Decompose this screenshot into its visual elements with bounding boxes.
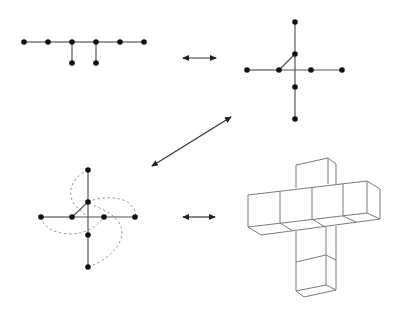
graph-node <box>101 214 107 220</box>
row-bottom-divider-1 <box>280 223 293 231</box>
row-bottom-face <box>248 219 380 235</box>
graph-node <box>85 232 91 238</box>
row-right-face <box>367 181 380 219</box>
graph-node <box>292 116 298 122</box>
linear-tree-graph <box>21 39 147 66</box>
graph-node <box>69 39 75 45</box>
arrow-diagonal <box>152 117 231 166</box>
pinwheel-tree-graph <box>38 167 138 270</box>
graph-node <box>244 67 250 73</box>
dashed-curve-bottom <box>88 202 122 267</box>
diagram-canvas <box>0 0 404 320</box>
stem-divider <box>296 255 336 262</box>
graph-node <box>93 39 99 45</box>
graph-node <box>45 39 51 45</box>
graph-node <box>292 51 298 57</box>
graph-node <box>117 39 123 45</box>
cube-net <box>248 158 380 297</box>
row-bottom-divider-2 <box>312 219 325 227</box>
dashed-curve-right <box>88 198 135 217</box>
graph-edge <box>279 54 295 70</box>
bidirectional-arrows <box>152 58 231 217</box>
graph-node <box>69 60 75 66</box>
diagram-svg <box>0 0 404 320</box>
graph-node <box>292 84 298 90</box>
graph-node <box>21 39 27 45</box>
graph-node <box>132 214 138 220</box>
graph-node <box>85 264 91 270</box>
graph-node <box>85 199 91 205</box>
cross-tree-graph <box>244 19 345 122</box>
graph-node <box>93 60 99 66</box>
graph-node <box>38 214 44 220</box>
top-cube-outline <box>296 158 336 188</box>
graph-node <box>308 67 314 73</box>
graph-node <box>292 19 298 25</box>
graph-node <box>85 167 91 173</box>
graph-node <box>339 67 345 73</box>
row-front-face <box>248 181 367 227</box>
graph-node <box>276 67 282 73</box>
stem-bottom-face <box>296 285 336 297</box>
graph-node <box>69 214 75 220</box>
row-bottom-divider-3 <box>343 216 356 222</box>
graph-node <box>141 39 147 45</box>
